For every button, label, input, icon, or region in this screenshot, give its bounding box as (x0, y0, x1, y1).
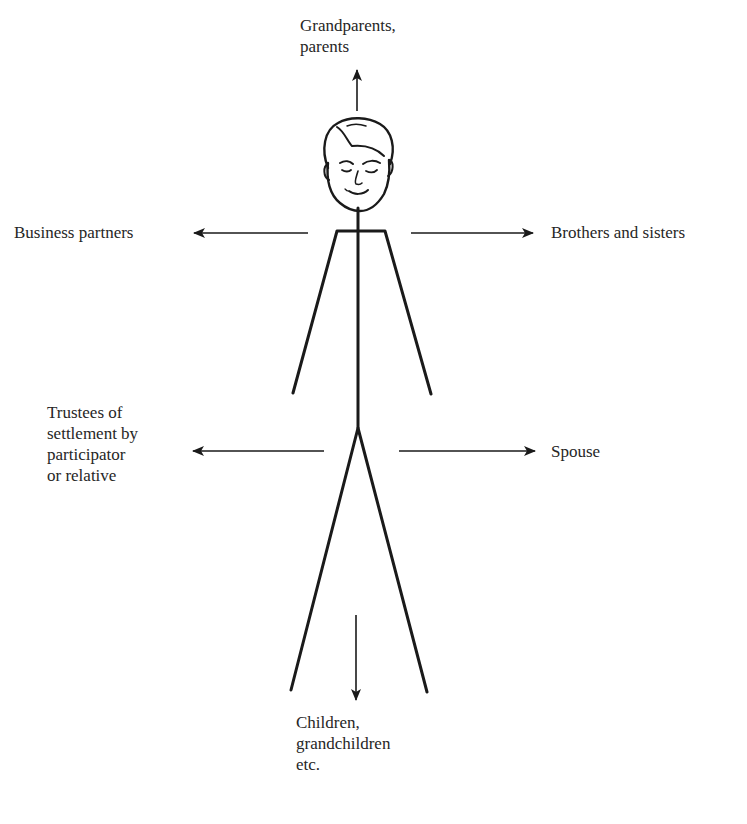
face-icon (324, 118, 392, 211)
stick-figure-icon (291, 118, 431, 692)
relationship-diagram-canvas (0, 0, 747, 824)
